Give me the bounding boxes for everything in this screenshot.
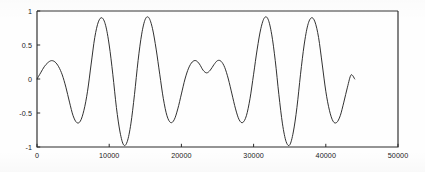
- x-tick-label: 50000: [388, 151, 409, 160]
- y-tick-label: 0.5: [22, 41, 32, 50]
- chart-canvas: 01000020000300004000050000 10.50-0.5-1: [0, 0, 425, 172]
- chart-figure: 01000020000300004000050000 10.50-0.5-1: [0, 0, 425, 172]
- x-tick-label: 20000: [171, 151, 192, 160]
- y-tick-label: 1: [28, 7, 32, 16]
- x-tick-label: 10000: [99, 151, 120, 160]
- y-tick-label: -1: [25, 143, 32, 152]
- y-tick-label: -0.5: [19, 109, 32, 118]
- y-tick-label: 0: [28, 75, 32, 84]
- x-axis-tick-labels: 01000020000300004000050000: [35, 151, 408, 160]
- y-axis-tick-labels: 10.50-0.5-1: [19, 7, 32, 152]
- plot-frame: [37, 11, 398, 147]
- x-tick-label: 0: [35, 151, 39, 160]
- x-tick-label: 30000: [243, 151, 264, 160]
- x-tick-label: 40000: [316, 151, 337, 160]
- frame-axes: [37, 11, 398, 147]
- data-series-signal: [37, 17, 355, 146]
